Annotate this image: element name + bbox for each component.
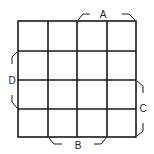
bracket-a-right [122, 14, 135, 20]
bracket-d-bottom [12, 95, 17, 108]
karnaugh-map: A D C B [0, 0, 154, 154]
bracket-b-right [94, 138, 106, 144]
label-c: C [139, 103, 146, 114]
bracket-b-left [49, 138, 62, 144]
grid [18, 21, 136, 137]
bracket-a-left [78, 14, 90, 20]
label-a: A [100, 9, 107, 20]
label-b: B [75, 140, 82, 151]
label-d: D [8, 75, 15, 86]
bracket-c-top [137, 81, 143, 93]
bracket-c-bottom [137, 123, 143, 136]
bracket-d-top [12, 52, 17, 64]
